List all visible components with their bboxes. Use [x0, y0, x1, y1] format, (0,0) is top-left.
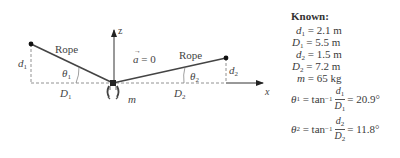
row-value: = 65 kg: [308, 72, 342, 84]
right-anchor-dot: [224, 56, 229, 61]
den-sub: 1: [342, 105, 346, 113]
mass-label: m: [128, 94, 136, 105]
d1-over-D1-fraction: d1 D1: [335, 86, 346, 113]
left-rope-label: Rope: [55, 44, 78, 55]
theta2-equation: θ2 = tan−1 d2 D2 = 11.8°: [291, 116, 399, 142]
row-value: = 5.5 m: [306, 36, 340, 48]
theta2-label: θ2: [190, 71, 199, 84]
D2-label: D2: [174, 88, 185, 101]
d1-label: d1: [18, 58, 27, 71]
tan-func: = tan: [303, 93, 325, 105]
theta1-result: = 20.9°: [347, 93, 380, 105]
D2-sub: 2: [182, 93, 186, 101]
free-body-diagram: Rope Rope z x a→ = 0 m d1 d2 D1 D2 θ1 θ2: [0, 0, 280, 158]
right-rope-label: Rope: [179, 50, 202, 61]
known-values-panel: Known: d1 = 2.1 m D1 = 5.5 m d2 = 1.5 m …: [291, 10, 399, 142]
known-row-d1: d1 = 2.1 m: [291, 24, 399, 36]
tan-func: = tan: [303, 123, 325, 135]
right-rope: [113, 58, 226, 83]
theta1-lhs-sub: 1: [296, 95, 300, 103]
known-row-d2: d2 = 1.5 m: [291, 48, 399, 60]
row-var: D: [292, 60, 300, 72]
D1-var: D: [60, 87, 68, 99]
x-axis-label: x: [265, 87, 269, 97]
theta1-label: θ1: [62, 68, 71, 81]
D1-sub: 1: [68, 93, 72, 101]
known-row-m: m = 65 kg: [291, 72, 399, 84]
den-var: D: [335, 130, 342, 141]
row-value: = 7.2 m: [306, 60, 340, 72]
D1-label: D1: [60, 88, 71, 101]
row-value: = 2.1 m: [308, 24, 342, 36]
den-sub: 2: [342, 135, 346, 143]
theta2-sub: 2: [195, 76, 199, 84]
inverse-exponent: −1: [325, 95, 332, 103]
d2-over-D2-fraction: d2 D2: [335, 116, 346, 143]
row-var: m: [297, 72, 305, 84]
den-var: D: [335, 100, 342, 111]
num-sub: 1: [341, 90, 345, 98]
theta1-equation: θ1 = tan−1 d1 D1 = 20.9°: [291, 86, 399, 112]
D2-var: D: [174, 87, 182, 99]
theta1-sub: 1: [67, 73, 71, 81]
d2-label: d2: [229, 65, 238, 78]
acceleration-value: = 0: [141, 53, 155, 65]
d1-sub: 1: [24, 63, 28, 71]
z-axis-label: z: [118, 26, 122, 36]
acceleration-label: a→ = 0: [133, 54, 156, 65]
num-sub: 2: [341, 120, 345, 128]
known-row-D2: D2 = 7.2 m: [291, 60, 399, 72]
theta2-lhs-sub: 2: [296, 125, 300, 133]
vector-arrow-icon: →: [134, 48, 141, 55]
theta1-arc: [76, 67, 79, 83]
known-row-D1: D1 = 5.5 m: [291, 36, 399, 48]
theta2-arc: [184, 67, 185, 83]
row-value: = 1.5 m: [308, 48, 342, 60]
row-var: D: [292, 36, 300, 48]
left-anchor-dot: [29, 42, 34, 47]
inverse-exponent: −1: [325, 125, 332, 133]
diagram-graphics: [0, 0, 280, 158]
theta2-result: = 11.8°: [347, 123, 379, 135]
d2-sub: 2: [235, 70, 239, 78]
known-title: Known:: [291, 10, 399, 22]
